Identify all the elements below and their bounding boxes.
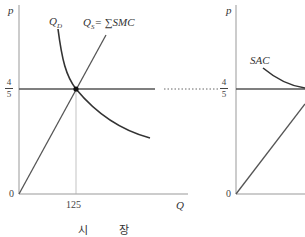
- supply-label: QS= ∑SMC: [83, 17, 134, 31]
- quantity-tick-label: 125: [66, 200, 81, 210]
- price-numerator: 4: [7, 77, 12, 87]
- market-x-axis-label: Q: [176, 200, 184, 211]
- equilibrium-point: [73, 86, 78, 91]
- demand-label-sub: D: [57, 22, 62, 30]
- market-y-axis-label: p: [8, 5, 14, 16]
- market-price-fraction: 45: [5, 78, 13, 99]
- firm-y-axis-label: p: [226, 5, 232, 16]
- market-origin-label: 0: [9, 189, 14, 199]
- price-denominator: 5: [7, 89, 12, 99]
- supply-label-main: Q: [83, 16, 91, 28]
- diagram-canvas: [0, 0, 305, 237]
- firm-price-denominator: 5: [222, 89, 227, 99]
- demand-label-main: Q: [49, 15, 57, 27]
- sac-label: SAC: [250, 55, 270, 66]
- market-caption: 시 장: [78, 221, 144, 237]
- demand-label: QD: [49, 16, 62, 30]
- sac-curve: [263, 68, 305, 88]
- firm-origin-label: 0: [226, 189, 231, 199]
- firm-price-numerator: 4: [222, 77, 227, 87]
- smc-curve: [236, 104, 305, 194]
- demand-curve: [58, 29, 150, 138]
- supply-label-rhs: = ∑SMC: [94, 16, 134, 28]
- firm-price-fraction: 45: [220, 78, 228, 99]
